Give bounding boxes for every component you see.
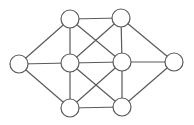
node-tl bbox=[61, 10, 79, 28]
node-bl bbox=[61, 99, 79, 117]
graph-diagram bbox=[0, 0, 194, 125]
node-tr bbox=[112, 9, 130, 27]
edge-r-br bbox=[122, 62, 174, 107]
node-l bbox=[10, 55, 28, 73]
edge-l-bl bbox=[19, 64, 70, 108]
node-cl bbox=[61, 54, 79, 72]
node-cr bbox=[113, 53, 131, 71]
node-r bbox=[165, 53, 183, 71]
graph-edges bbox=[19, 18, 174, 108]
node-br bbox=[113, 98, 131, 116]
